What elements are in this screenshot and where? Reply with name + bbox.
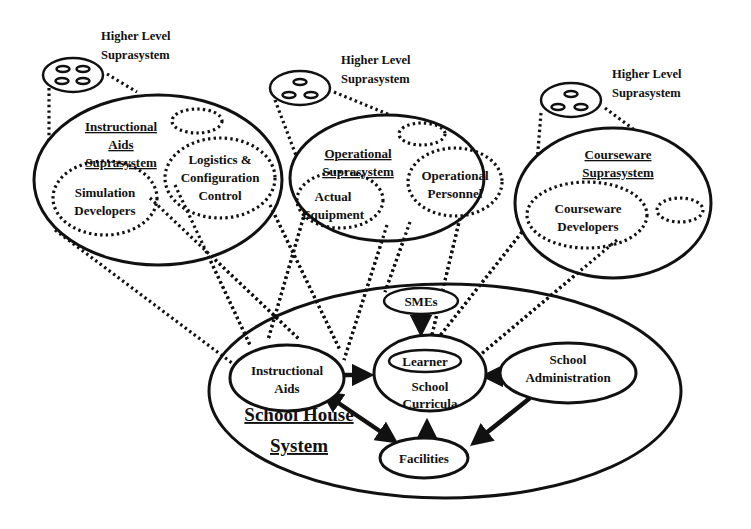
suprasystem-title: Aids	[108, 137, 133, 152]
logistics-label: Control	[198, 188, 241, 203]
instructional-aids-label: Aids	[274, 381, 299, 396]
operational-personnel-label: Operational	[421, 168, 489, 183]
suprasystem-title: Suprasystem	[322, 164, 394, 179]
higher-level-suprasystem-1: Higher Level Suprasystem	[43, 29, 171, 92]
simulation-label: Simulation	[75, 185, 136, 200]
smes-label: SMEs	[404, 294, 437, 309]
actual-equipment-label: Equipment	[302, 207, 365, 222]
administration-label: Administration	[525, 370, 611, 385]
higher-level-label: Higher Level	[101, 29, 171, 43]
instructional-aids-label: Instructional	[251, 363, 324, 378]
higher-level-label: Higher Level	[341, 53, 411, 67]
instructional-aids-suprasystem: Instructional Aids Suprasystem Logistics…	[34, 95, 282, 265]
curricula-label: Curricula	[403, 396, 458, 411]
administration-label: School	[550, 352, 587, 367]
higher-level-label: Suprasystem	[101, 48, 170, 62]
suprasystem-title: Instructional	[85, 119, 158, 134]
learner-label: Learner	[402, 354, 448, 369]
courseware-developers-label: Developers	[557, 219, 618, 234]
suprasystem-title: Suprasystem	[582, 165, 654, 180]
school-house-title: System	[270, 435, 328, 456]
courseware-suprasystem: Courseware Suprasystem Courseware Develo…	[515, 128, 711, 278]
simulation-label: Developers	[74, 203, 135, 218]
school-house-system: School House System SMEs Learner School …	[209, 284, 681, 498]
courseware-developers-label: Courseware	[555, 201, 622, 216]
higher-level-label: Suprasystem	[612, 86, 681, 100]
suprasystem-title: Courseware	[585, 147, 652, 162]
logistics-label: Logistics &	[188, 152, 251, 167]
system-diagram: Higher Level Suprasystem Higher Level Su…	[0, 0, 751, 529]
operational-personnel-label: Personnel	[428, 186, 483, 201]
suprasystem-title: Suprasystem	[85, 155, 157, 170]
higher-level-label: Suprasystem	[341, 72, 410, 86]
higher-level-suprasystem-3: Higher Level Suprasystem	[541, 67, 682, 117]
logistics-label: Configuration	[181, 170, 261, 185]
higher-level-label: Higher Level	[612, 67, 682, 81]
curricula-label: School	[412, 379, 449, 394]
higher-level-suprasystem-2: Higher Level Suprasystem	[270, 53, 411, 105]
facilities-label: Facilities	[399, 451, 449, 466]
operational-suprasystem: Operational Suprasystem Operational Pers…	[290, 115, 502, 241]
suprasystem-title: Operational	[324, 146, 392, 161]
actual-equipment-label: Actual	[315, 189, 352, 204]
